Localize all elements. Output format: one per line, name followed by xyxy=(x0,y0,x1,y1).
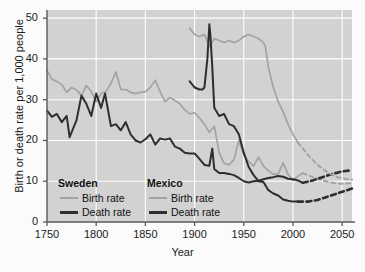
x-tick-label: 2000 xyxy=(271,228,315,240)
legend-group-title: Sweden xyxy=(58,177,98,189)
x-tick-label: 1800 xyxy=(74,228,118,240)
legend-swatch xyxy=(149,211,167,214)
x-tick-label: 1750 xyxy=(25,228,69,240)
y-tick-label: 50 xyxy=(16,11,38,23)
y-tick-label: 0 xyxy=(16,215,38,227)
y-tick-label: 40 xyxy=(16,52,38,64)
legend-entry-label: Birth rate xyxy=(82,192,125,204)
x-tick-label: 1850 xyxy=(123,228,167,240)
plot-background xyxy=(47,10,352,222)
y-tick-label: 30 xyxy=(16,93,38,105)
x-tick-label: 1950 xyxy=(222,228,266,240)
legend-entry-label: Death rate xyxy=(82,206,131,218)
legend-swatch xyxy=(60,211,78,214)
legend-swatch xyxy=(149,197,167,199)
x-tick-label: 1900 xyxy=(173,228,217,240)
legend-group-title: Mexico xyxy=(147,177,183,189)
y-tick-label: 20 xyxy=(16,133,38,145)
x-axis-label: Year xyxy=(0,246,365,258)
legend-swatch xyxy=(60,197,78,199)
demographic-transition-chart: Birth or death rate per 1,000 people Yea… xyxy=(0,0,365,272)
y-tick-label: 10 xyxy=(16,174,38,186)
x-tick-label: 2050 xyxy=(320,228,364,240)
legend-entry-label: Death rate xyxy=(171,206,220,218)
legend-entry-label: Birth rate xyxy=(171,192,214,204)
